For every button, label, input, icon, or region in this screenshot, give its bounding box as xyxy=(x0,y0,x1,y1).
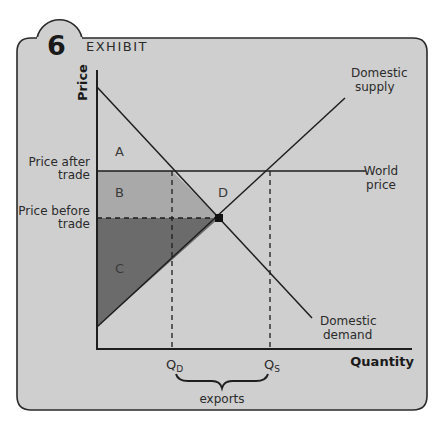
demand-label-1: Domestic xyxy=(320,314,377,328)
exhibit-title: EXHIBIT xyxy=(86,39,148,54)
x-axis-label: Quantity xyxy=(350,354,414,369)
supply-label-2: supply xyxy=(355,80,395,94)
price-before-label-2: trade xyxy=(58,217,90,231)
world-price-label-1: World xyxy=(364,164,398,178)
price-before-label-1: Price before xyxy=(18,204,90,218)
price-after-label-2: trade xyxy=(58,168,90,182)
supply-label-1: Domestic xyxy=(351,66,408,80)
y-axis-label: Price xyxy=(75,64,90,101)
exhibit-number: 6 xyxy=(47,30,66,61)
demand-label-2: demand xyxy=(323,328,372,342)
region-a-label: A xyxy=(115,144,124,159)
region-c-label: C xyxy=(115,261,124,276)
world-price-label-2: price xyxy=(366,178,396,192)
region-d-label: D xyxy=(218,185,228,200)
region-b-label: B xyxy=(115,185,124,200)
exhibit-diagram: 6 EXHIBIT Price Quantity Price after tra… xyxy=(0,0,440,423)
price-after-label-1: Price after xyxy=(29,155,91,169)
equilibrium-point xyxy=(215,214,223,222)
exports-label: exports xyxy=(199,392,244,406)
